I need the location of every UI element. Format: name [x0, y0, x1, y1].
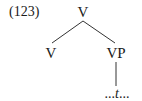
- trace-prefix: ...: [105, 86, 116, 101]
- edge-root-to-vp: [83, 21, 115, 43]
- trace-suffix: ...: [119, 86, 130, 101]
- root-node-v: V: [78, 5, 89, 20]
- child-node-v: V: [46, 46, 57, 61]
- edge-root-to-v: [52, 21, 83, 43]
- trace-leaf: ...t...: [105, 86, 130, 101]
- child-node-vp: VP: [106, 46, 125, 61]
